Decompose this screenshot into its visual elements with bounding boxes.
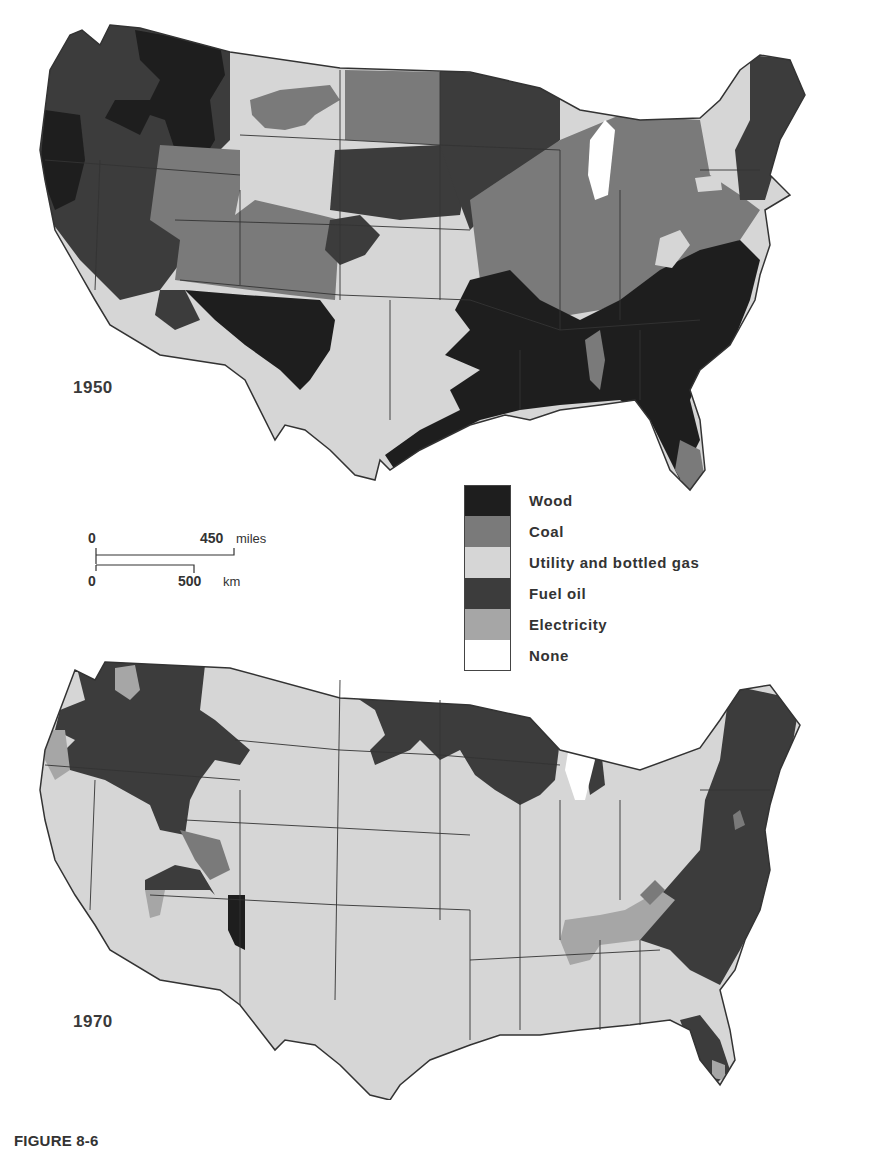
scale-km-value: 500 xyxy=(178,573,201,589)
scale-km-unit: km xyxy=(223,574,240,589)
legend-swatch-coal xyxy=(464,516,511,547)
legend-swatch-fuel-oil xyxy=(464,578,511,609)
legend-item-coal: Coal xyxy=(464,516,699,547)
legend-swatch-utility-gas xyxy=(464,547,511,578)
scale-bar: 0 450 miles 0 500 km xyxy=(86,530,256,590)
legend-label-wood: Wood xyxy=(529,492,573,509)
legend-label-utility-gas: Utility and bottled gas xyxy=(529,554,699,571)
map-1970 xyxy=(0,640,883,1100)
map-1950 xyxy=(0,0,883,500)
legend-label-coal: Coal xyxy=(529,523,564,540)
legend-label-fuel-oil: Fuel oil xyxy=(529,585,586,602)
year-label-1950: 1950 xyxy=(73,378,113,398)
legend-item-electricity: Electricity xyxy=(464,609,699,640)
legend-label-electricity: Electricity xyxy=(529,616,607,633)
legend-item-fuel-oil: Fuel oil xyxy=(464,578,699,609)
map-1970-svg xyxy=(0,640,883,1100)
map-1950-svg xyxy=(0,0,883,500)
legend-item-utility-gas: Utility and bottled gas xyxy=(464,547,699,578)
legend-swatch-wood xyxy=(464,485,511,516)
scale-km-zero: 0 xyxy=(88,573,96,589)
year-label-1970: 1970 xyxy=(73,1012,113,1032)
legend-item-wood: Wood xyxy=(464,485,699,516)
figure-caption: FIGURE 8-6 xyxy=(14,1132,99,1149)
legend-swatch-electricity xyxy=(464,609,511,640)
